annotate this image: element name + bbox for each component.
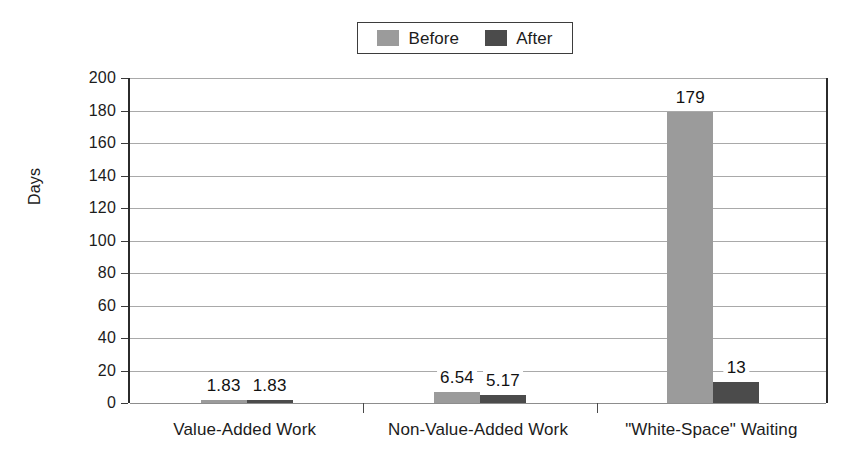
y-axis-tick — [121, 176, 128, 177]
y-axis-tick-label: 200 — [89, 69, 116, 87]
legend-label-after: After — [516, 30, 552, 47]
y-axis-tick — [121, 306, 128, 307]
x-axis-category-label: Non-Value-Added Work — [388, 420, 568, 440]
y-axis-tick — [121, 403, 128, 404]
y-axis-tick-label: 100 — [89, 232, 116, 250]
legend-swatch-before — [377, 30, 399, 46]
y-axis-tick — [121, 241, 128, 242]
bars-layer: 1.831.836.545.1717913 — [130, 78, 826, 403]
y-axis-tick — [121, 111, 128, 112]
bar-after — [247, 400, 293, 403]
bar-chart: Before After Days 2001801601401201008060… — [0, 0, 865, 470]
y-axis-tick-label: 180 — [89, 102, 116, 120]
x-axis-separator-tick — [597, 403, 598, 413]
bar-value-label: 5.17 — [483, 371, 523, 391]
bar-value-label: 6.54 — [437, 368, 477, 388]
bar-value-label: 13 — [724, 358, 749, 378]
y-axis-tick-label: 0 — [107, 394, 116, 412]
y-axis-tick — [121, 208, 128, 209]
x-axis-category-label: Value-Added Work — [173, 420, 316, 440]
y-axis-tick — [121, 143, 128, 144]
plot-area: 200180160140120100806040200 1.831.836.54… — [128, 78, 828, 403]
y-axis-tick — [121, 273, 128, 274]
legend-swatch-after — [485, 30, 507, 46]
y-axis-tick — [121, 78, 128, 79]
bar-value-label: 1.83 — [250, 376, 290, 396]
y-axis-tick — [121, 338, 128, 339]
y-axis-tick-label: 40 — [98, 329, 116, 347]
legend-item-before: Before — [377, 30, 459, 47]
bar-after — [713, 382, 759, 403]
y-axis-tick — [121, 371, 128, 372]
y-axis-title: Days — [26, 168, 44, 205]
y-axis-tick-label: 20 — [98, 362, 116, 380]
bar-value-label: 179 — [673, 88, 708, 108]
bar-before — [434, 392, 480, 403]
bar-before — [667, 112, 713, 403]
y-axis-tick-label: 140 — [89, 167, 116, 185]
gridline — [130, 403, 826, 404]
chart-legend: Before After — [357, 22, 573, 54]
legend-item-after: After — [485, 30, 552, 47]
bar-before — [201, 400, 247, 403]
y-axis-tick-label: 60 — [98, 297, 116, 315]
y-axis-tick-label: 160 — [89, 134, 116, 152]
legend-label-before: Before — [408, 30, 459, 47]
x-axis-category-label: "White-Space" Waiting — [625, 420, 797, 440]
bar-after — [480, 395, 526, 403]
y-axis-tick-label: 120 — [89, 199, 116, 217]
bar-value-label: 1.83 — [204, 376, 244, 396]
y-axis-tick-label: 80 — [98, 264, 116, 282]
x-axis-separator-tick — [363, 403, 364, 413]
